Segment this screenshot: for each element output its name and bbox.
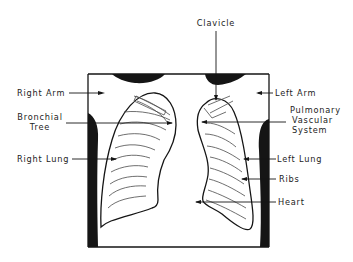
soft-tissue-shadows <box>88 74 269 247</box>
label-ribs: Ribs <box>279 174 300 184</box>
label-pulmonary-2: Vascular <box>292 115 333 125</box>
label-bronchial-tree-2: Tree <box>29 122 50 132</box>
label-heart: Heart <box>278 197 305 207</box>
right-chest-wall-shadow <box>88 113 98 247</box>
label-pulmonary-1: Pulmonary <box>290 105 341 115</box>
left-lung <box>197 96 253 230</box>
right-shoulder-shadow <box>112 74 165 83</box>
label-right-lung: Right Lung <box>17 154 69 164</box>
left-shoulder-shadow <box>205 74 246 85</box>
label-left-lung: Left Lung <box>277 154 322 164</box>
label-pulmonary-3: System <box>292 125 327 135</box>
left-chest-wall-shadow <box>259 119 269 247</box>
film-frame <box>88 74 269 247</box>
labels: Clavicle Right Arm Bronchial Tree Right … <box>17 18 341 207</box>
chest-xray-diagram: Clavicle Right Arm Bronchial Tree Right … <box>0 0 353 262</box>
label-right-arm: Right Arm <box>17 88 65 98</box>
label-bronchial-tree-1: Bronchial <box>17 112 62 122</box>
label-clavicle: Clavicle <box>197 18 235 28</box>
label-left-arm: Left Arm <box>275 88 316 98</box>
